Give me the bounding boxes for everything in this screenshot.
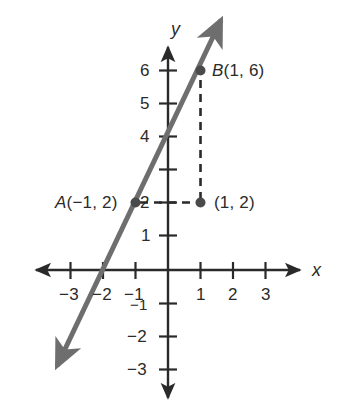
x-tick-label-3: 3 <box>261 286 271 303</box>
y-tick-label-6: 6 <box>140 62 150 79</box>
x-tick-label-2: 2 <box>228 286 238 303</box>
point-label-B-name: B <box>212 61 224 80</box>
y-tick-label-1: 1 <box>141 227 151 244</box>
point-label-A-coords: (−1, 2) <box>67 193 118 212</box>
point-label-B: B(1, 6) <box>212 62 264 79</box>
x-tick-label-1: 1 <box>196 286 206 303</box>
y-tick-label--2: −2 <box>127 328 147 345</box>
y-tick-label-4: 4 <box>140 128 150 145</box>
coordinate-plane-figure: y x 6 5 4 2 1 −1 −2 −3 −3 −2 −1 1 2 3 A(… <box>0 0 351 417</box>
y-axis-label: y <box>171 20 180 38</box>
y-tick-label-2: 2 <box>140 194 150 211</box>
point-label-A-name: A <box>55 193 67 212</box>
y-tick-label--3: −3 <box>127 361 147 378</box>
point-label-A: A(−1, 2) <box>55 194 118 211</box>
graph-canvas <box>0 0 351 417</box>
point-B <box>196 66 206 76</box>
x-tick-label--3: −3 <box>59 286 79 303</box>
x-axis-label: x <box>312 261 321 279</box>
point-label-C: (1, 2) <box>214 194 255 211</box>
x-tick-label--1: −1 <box>124 286 144 303</box>
point-label-B-coords: (1, 6) <box>224 61 265 80</box>
point-C <box>196 198 206 208</box>
y-tick-label-5: 5 <box>140 95 150 112</box>
x-tick-label--2: −2 <box>92 286 112 303</box>
point-A <box>131 198 141 208</box>
